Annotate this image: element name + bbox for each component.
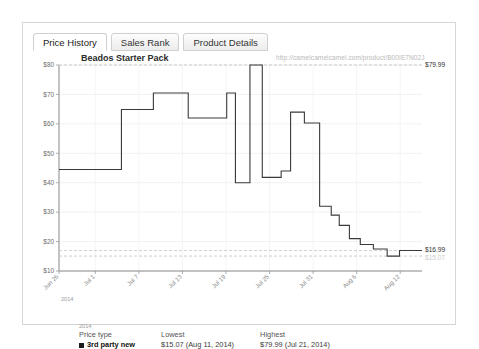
svg-text:Jul 1: Jul 1	[82, 272, 97, 287]
svg-text:$80: $80	[43, 61, 54, 68]
svg-text:Aug 12: Aug 12	[382, 272, 401, 291]
legend-table: Price type Lowest Highest 3rd party new …	[79, 330, 356, 349]
legend-series-name: 3rd party new	[79, 340, 161, 349]
svg-text:2014: 2014	[61, 296, 73, 302]
legend-row: 3rd party new $15.07 (Aug 11, 2014) $79.…	[79, 340, 356, 349]
legend-color-swatch	[79, 343, 84, 348]
svg-text:$50: $50	[43, 150, 54, 157]
legend-header-highest: Highest	[260, 330, 356, 340]
tab-price-history[interactable]: Price History	[33, 33, 107, 51]
screenshot-root: Price History Sales Rank Product Details…	[0, 0, 479, 349]
tab-bar: Price History Sales Rank Product Details	[33, 32, 268, 51]
svg-text:Jun 26: Jun 26	[42, 272, 60, 290]
svg-text:$10: $10	[43, 267, 54, 274]
svg-text:$40: $40	[43, 179, 54, 186]
price-history-panel: Price History Sales Rank Product Details…	[22, 22, 456, 325]
svg-text:Aug 6: Aug 6	[341, 272, 358, 289]
svg-text:Jul 13: Jul 13	[166, 272, 183, 289]
legend-lowest-value: $15.07 (Aug 11, 2014)	[161, 340, 260, 349]
price-legend: 2014 Price type Lowest Highest 3rd party…	[79, 323, 356, 349]
legend-header-price-type: Price type	[79, 330, 161, 340]
svg-text:$20: $20	[43, 238, 54, 245]
svg-text:$30: $30	[43, 208, 54, 215]
tab-product-details[interactable]: Product Details	[183, 33, 267, 51]
svg-text:Jul 19: Jul 19	[210, 272, 227, 289]
svg-text:Jul 7: Jul 7	[125, 272, 140, 287]
legend-series-label: 3rd party new	[87, 340, 135, 349]
price-history-chart: Beados Starter Pack http://camelcamelcam…	[33, 53, 447, 315]
legend-highest-value: $79.99 (Jul 21, 2014)	[260, 340, 356, 349]
chart-plot-area[interactable]: $10$20$30$40$50$60$70$80Jun 26Jul 1Jul 7…	[33, 53, 447, 315]
tab-sales-rank[interactable]: Sales Rank	[111, 33, 180, 51]
svg-text:$60: $60	[43, 120, 54, 127]
legend-header-row: Price type Lowest Highest	[79, 330, 356, 340]
legend-header-lowest: Lowest	[161, 330, 260, 340]
svg-text:Jul 25: Jul 25	[254, 272, 271, 289]
svg-text:$70: $70	[43, 91, 54, 98]
legend-year: 2014	[79, 323, 356, 329]
svg-text:Jul 31: Jul 31	[297, 272, 314, 289]
